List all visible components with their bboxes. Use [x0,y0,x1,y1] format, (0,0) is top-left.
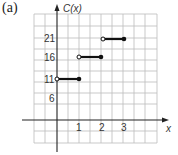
y-axis-label: C(x) [63,3,82,14]
x-axis-label: x [165,123,172,134]
step-function-chart: C(x) x 21 16 11 6 1 2 3 [0,0,178,155]
x-tick-2: 2 [99,122,105,133]
endpoints [55,37,126,82]
x-tick-1: 1 [76,122,82,133]
open-point-icon [77,55,81,59]
closed-point-icon [122,37,127,42]
y-tick-6: 6 [49,93,55,104]
x-axis-arrow-icon [162,118,169,123]
y-tick-21: 21 [44,33,56,44]
closed-point-icon [77,77,82,82]
open-point-icon [55,77,59,81]
open-point-icon [101,37,105,41]
closed-point-icon [99,55,104,60]
y-axis-arrow-icon [55,4,60,11]
y-tick-16: 16 [44,52,56,63]
y-tick-11: 11 [44,74,55,85]
x-tick-3: 3 [121,122,127,133]
